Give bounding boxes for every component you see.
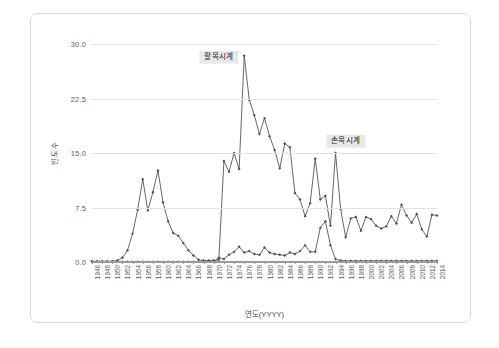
x-tick: 1946 [87, 264, 97, 282]
x-axis-ticks: 1946194819501952195419561958196019621964… [92, 264, 437, 310]
x-tick-mark [163, 261, 164, 264]
data-point-marker [222, 160, 225, 163]
x-tick-mark [407, 261, 408, 264]
x-tick: 1958 [148, 264, 158, 282]
data-point-marker [400, 203, 403, 206]
x-tick-mark [417, 261, 418, 264]
gridline: 22.5 [92, 99, 437, 100]
x-tick-mark [112, 261, 113, 264]
x-tick: 1948 [97, 264, 107, 282]
x-tick-mark [234, 261, 235, 264]
x-tick: 1962 [168, 264, 178, 282]
data-point-marker [314, 250, 317, 253]
series-line [92, 221, 437, 261]
x-tick-mark [244, 261, 245, 264]
x-tick: 1982 [270, 264, 280, 282]
data-point-marker [243, 54, 246, 57]
data-point-marker [349, 217, 352, 220]
x-tick: 1970 [209, 264, 219, 282]
y-tick-label: 7.5 [75, 203, 86, 212]
x-tick-mark [386, 261, 387, 264]
data-point-marker [278, 167, 281, 170]
x-tick-mark [325, 261, 326, 264]
x-tick: 1968 [199, 264, 209, 282]
data-point-marker [354, 215, 357, 218]
data-point-marker [258, 133, 261, 136]
x-tick-mark [183, 261, 184, 264]
x-tick-mark [275, 261, 276, 264]
x-tick-mark [193, 261, 194, 264]
x-tick-mark [153, 261, 154, 264]
x-tick-mark [254, 261, 255, 264]
data-point-marker [136, 208, 139, 211]
x-tick-mark [356, 261, 357, 264]
x-tick-mark [122, 261, 123, 264]
data-point-marker [157, 169, 160, 172]
data-point-marker [365, 215, 368, 218]
data-point-marker [278, 253, 281, 256]
x-tick-mark [143, 261, 144, 264]
x-tick: 2014 [432, 264, 442, 282]
x-tick: 1972 [219, 264, 229, 282]
data-point-marker [329, 224, 332, 227]
x-tick: 2010 [412, 264, 422, 282]
x-tick: 2000 [361, 264, 371, 282]
x-tick: 1964 [178, 264, 188, 282]
x-tick: 1996 [341, 264, 351, 282]
x-tick-mark [265, 261, 266, 264]
x-tick-mark [305, 261, 306, 264]
y-tick-label: 15.0 [71, 149, 86, 158]
x-tick: 1990 [310, 264, 320, 282]
data-point-marker [263, 117, 266, 120]
gridline: 15.0 [92, 153, 437, 154]
data-point-marker [167, 220, 170, 223]
series-line [92, 56, 437, 262]
x-tick: 1976 [239, 264, 249, 282]
data-point-marker [304, 215, 307, 218]
x-axis-label: 연도(YYYY) [92, 308, 437, 319]
data-point-marker [436, 214, 439, 217]
x-tick: 1988 [300, 264, 310, 282]
data-point-marker [359, 229, 362, 232]
x-tick: 2004 [381, 264, 391, 282]
x-tick-mark [427, 261, 428, 264]
data-point-marker [430, 213, 433, 216]
gridline: 7.5 [92, 208, 437, 209]
x-tick: 1980 [260, 264, 270, 282]
x-tick-mark [92, 261, 93, 264]
x-tick-mark [437, 261, 438, 264]
data-point-marker [238, 168, 241, 171]
data-point-marker [228, 170, 231, 173]
data-point-marker [151, 191, 154, 194]
x-tick: 2002 [371, 264, 381, 282]
x-tick: 1994 [331, 264, 341, 282]
x-tick-mark [133, 261, 134, 264]
x-tick: 1950 [107, 264, 117, 282]
data-point-marker [268, 135, 271, 138]
x-tick-mark [173, 261, 174, 264]
x-tick-mark [295, 261, 296, 264]
y-tick-label: 22.5 [71, 94, 86, 103]
x-tick-mark [224, 261, 225, 264]
data-point-marker [329, 244, 332, 247]
x-tick: 1978 [249, 264, 259, 282]
chart-canvas: 빈도수 0.07.515.022.530.0 19461948195019521… [31, 14, 472, 324]
x-tick-mark [285, 261, 286, 264]
data-point-marker [314, 157, 317, 160]
x-tick: 1984 [280, 264, 290, 282]
x-tick: 1956 [138, 264, 148, 282]
x-tick-mark [366, 261, 367, 264]
data-point-marker [344, 236, 347, 239]
x-tick-mark [346, 261, 347, 264]
plot-area: 0.07.515.022.530.0 [92, 44, 437, 262]
x-tick-mark [315, 261, 316, 264]
data-point-marker [162, 201, 165, 204]
data-point-marker [131, 232, 134, 235]
series-팔목시계 [91, 54, 439, 263]
data-point-marker [273, 149, 276, 152]
y-tick-label: 30.0 [71, 40, 86, 49]
data-point-marker [253, 114, 256, 117]
x-tick: 1966 [188, 264, 198, 282]
x-tick: 1986 [290, 264, 300, 282]
x-tick-mark [396, 261, 397, 264]
